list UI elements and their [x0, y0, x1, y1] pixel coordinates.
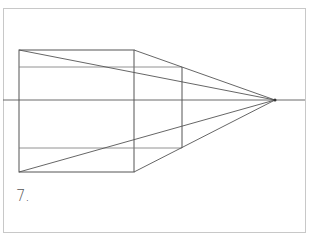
- perspective-figure: 7.: [0, 0, 311, 238]
- orthogonal-top-right: [134, 50, 275, 100]
- figure-frame: [4, 9, 306, 233]
- perspective-drawing: [0, 0, 311, 238]
- orthogonal-bottom-left: [19, 100, 275, 172]
- orthogonal-bottom-right: [134, 100, 275, 172]
- vanishing-point: [274, 99, 277, 102]
- orthogonal-top-left: [19, 50, 275, 100]
- figure-label: 7.: [16, 187, 29, 205]
- front-face: [19, 50, 134, 172]
